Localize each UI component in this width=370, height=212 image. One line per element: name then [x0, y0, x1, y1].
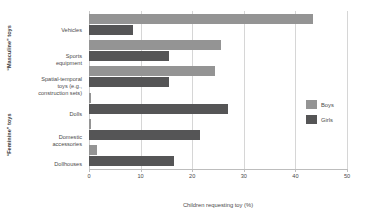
x-axis-title: Children requesting toy (%) — [89, 193, 347, 211]
legend-swatch-boys-icon — [306, 100, 317, 109]
bar-boys-spatial-temporal-toys-e-g-construction-sets — [89, 66, 215, 76]
bar-boys-dolls — [89, 93, 91, 103]
bar-girls-vehicles — [89, 25, 133, 35]
gridline-10 — [141, 11, 142, 169]
x-tick-0 — [89, 169, 90, 172]
gridline-30 — [244, 11, 245, 169]
bar-boys-domestic-accessories — [89, 119, 91, 129]
category-label-spatial: Spatial-temporal toys (e.g., constructio… — [0, 76, 82, 97]
bar-girls-sports-equipment — [89, 51, 169, 61]
category-label-vehicles: Vehicles — [0, 27, 82, 34]
legend: Boys Girls — [306, 100, 334, 130]
category-label-dollhouses: Dollhouses — [0, 161, 82, 168]
category-label-dolls: Dolls — [0, 111, 82, 118]
bar-girls-dolls — [89, 104, 228, 114]
x-axis-title-text: Children requesting toy (%) — [183, 202, 253, 208]
x-tick-50 — [347, 169, 348, 172]
legend-item-boys[interactable]: Boys — [306, 100, 334, 109]
bar-chart: “Masculine” toys “Feminine” toys Vehicle… — [0, 0, 370, 212]
gridline-40 — [295, 11, 296, 169]
x-tick-label-40: 40 — [292, 173, 298, 179]
x-tick-label-0: 0 — [87, 173, 90, 179]
bar-girls-dollhouses — [89, 156, 174, 166]
x-tick-label-20: 20 — [189, 173, 195, 179]
bar-boys-dollhouses — [89, 145, 97, 155]
x-tick-10 — [141, 169, 142, 172]
x-tick-label-30: 30 — [241, 173, 247, 179]
category-label-domestic: Domestic accessories — [0, 134, 82, 148]
bar-girls-spatial-temporal-toys-e-g-construction-sets — [89, 77, 169, 87]
legend-swatch-girls-icon — [306, 115, 317, 124]
legend-label-girls: Girls — [321, 117, 333, 123]
x-axis-line — [89, 169, 347, 170]
bar-boys-sports-equipment — [89, 40, 221, 50]
category-axis-labels: Vehicles Sports equipment Spatial-tempor… — [0, 11, 85, 169]
x-tick-label-50: 50 — [344, 173, 350, 179]
legend-label-boys: Boys — [321, 102, 334, 108]
category-label-sports: Sports equipment — [0, 53, 82, 67]
plot-area — [89, 11, 347, 169]
legend-item-girls[interactable]: Girls — [306, 115, 334, 124]
x-tick-20 — [192, 169, 193, 172]
bar-boys-vehicles — [89, 14, 313, 24]
bar-girls-domestic-accessories — [89, 130, 200, 140]
x-tick-30 — [244, 169, 245, 172]
x-tick-label-10: 10 — [137, 173, 143, 179]
gridline-20 — [192, 11, 193, 169]
gridline-50 — [347, 11, 348, 169]
x-tick-40 — [295, 169, 296, 172]
